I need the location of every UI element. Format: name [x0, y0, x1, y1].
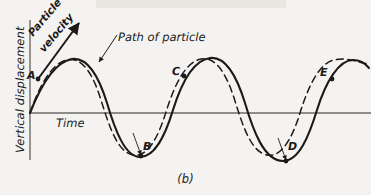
point-marker-c — [182, 74, 187, 79]
displacement-curve — [30, 58, 369, 161]
point-label-a: A — [27, 70, 36, 81]
point-marker-b — [139, 154, 144, 159]
path-of-particle-label: Path of particle — [118, 32, 206, 44]
point-label-c: C — [172, 66, 180, 77]
point-marker-e — [330, 77, 335, 82]
point-b-leader — [133, 133, 141, 155]
point-marker-a — [36, 77, 41, 82]
point-d-leader — [278, 138, 286, 160]
point-label-d: D — [288, 141, 297, 152]
figure-caption: (b) — [0, 172, 371, 186]
point-marker-d — [284, 159, 289, 164]
wave-figure: Vertical displacement Time Path of parti… — [0, 0, 371, 195]
x-axis-label: Time — [56, 118, 85, 130]
point-label-e: E — [320, 67, 328, 78]
path-label-leader-line — [99, 35, 117, 62]
y-axis-label: Vertical displacement — [15, 25, 27, 155]
point-label-b: B — [143, 141, 151, 152]
